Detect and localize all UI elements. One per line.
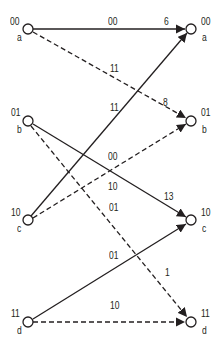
node-left-a-state: 00 xyxy=(10,17,19,27)
node-right-c xyxy=(186,215,196,225)
node-right-a xyxy=(186,24,196,34)
node-left-b xyxy=(23,116,33,126)
node-right-d xyxy=(186,317,196,327)
node-right-b-state: 01 xyxy=(201,108,210,118)
metric-c: 13 xyxy=(164,192,173,202)
node-left-a xyxy=(23,24,33,34)
node-left-a-name: a xyxy=(17,33,22,43)
edge-c-to-a-label: 11 xyxy=(110,103,119,113)
node-right-a-name: a xyxy=(202,33,207,43)
edge-b-to-d-label: 01 xyxy=(109,203,118,213)
edge-a-to-a-label: 00 xyxy=(108,17,117,27)
metric-d: 1 xyxy=(165,268,170,278)
edge-d-to-d-label: 10 xyxy=(110,301,119,311)
node-right-a-state: 00 xyxy=(201,17,210,27)
node-right-d-state: 11 xyxy=(201,309,210,319)
edge-b-to-c-label: 00 xyxy=(108,152,117,162)
node-left-c-state: 10 xyxy=(11,208,20,218)
trellis-svg xyxy=(0,0,223,341)
node-left-d xyxy=(23,317,33,327)
node-left-c xyxy=(23,215,33,225)
trellis-diagram: 00 a 01 b 10 c 11 d 00 a 01 b 10 c 11 d … xyxy=(0,0,223,341)
edge-c-to-b-label: 10 xyxy=(108,182,117,192)
metric-a: 6 xyxy=(164,17,169,27)
node-left-d-name: d xyxy=(17,326,22,336)
metric-b: 8 xyxy=(163,98,168,108)
node-right-b xyxy=(186,116,196,126)
edge-a-to-b-label: 11 xyxy=(110,64,119,74)
node-left-d-state: 11 xyxy=(11,309,20,319)
node-left-b-name: b xyxy=(17,125,22,135)
edge-d-to-c-label: 01 xyxy=(109,251,118,261)
node-right-d-name: d xyxy=(202,326,207,336)
node-right-b-name: b xyxy=(202,125,207,135)
node-right-c-state: 10 xyxy=(201,208,210,218)
node-left-c-name: c xyxy=(17,224,21,234)
node-right-c-name: c xyxy=(202,224,206,234)
node-left-b-state: 01 xyxy=(11,108,20,118)
